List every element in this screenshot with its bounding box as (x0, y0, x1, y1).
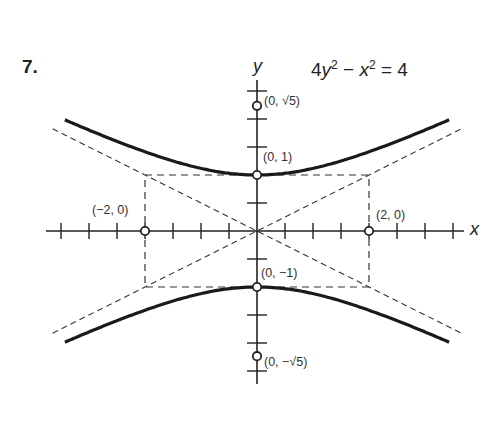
point-label-right: (2, 0) (376, 208, 405, 222)
point-marker (253, 352, 261, 360)
point-label-left: (−2, 0) (92, 203, 128, 217)
point-marker (253, 102, 261, 110)
point-label-top-sqrt5: (0, √5) (264, 94, 300, 108)
point-marker (253, 171, 261, 179)
point-label-vertex-bottom: (0, −1) (261, 266, 297, 280)
hyperbola-plot (0, 0, 493, 425)
point-marker (253, 283, 261, 291)
point-marker (141, 227, 149, 235)
point-marker (365, 227, 373, 235)
point-label-bottom-sqrt5: (0, −√5) (264, 355, 307, 369)
point-label-vertex-top: (0, 1) (263, 150, 292, 164)
